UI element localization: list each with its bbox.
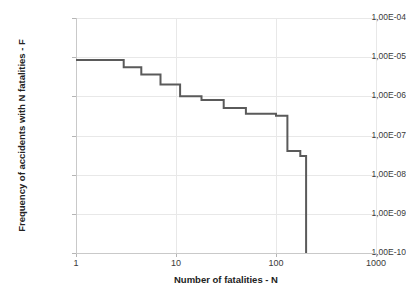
x-tick-label: 1 xyxy=(56,258,96,268)
gridline-vertical xyxy=(176,18,177,253)
y-axis-title: Frequency of accidents with N fatalities… xyxy=(16,11,27,261)
gridline-horizontal xyxy=(76,96,376,97)
y-tick-label: 1,00E-08 xyxy=(342,170,406,179)
x-axis-line xyxy=(76,253,377,254)
y-tick-label: 1,00E-05 xyxy=(342,52,406,61)
y-tick-label: 1,00E-07 xyxy=(342,131,406,140)
x-tick-label: 10 xyxy=(156,258,196,268)
y-tick-label: 1,00E-04 xyxy=(342,13,406,22)
gridline-horizontal xyxy=(76,18,376,19)
gridline-horizontal xyxy=(76,57,376,58)
x-tick-label: 100 xyxy=(256,258,296,268)
gridline-horizontal xyxy=(76,175,376,176)
x-tick-label: 1000 xyxy=(356,258,396,268)
y-tick-label: 1,00E-09 xyxy=(342,209,406,218)
y-tick-label: 1,00E-06 xyxy=(342,91,406,100)
x-axis-title: Number of fatalities - N xyxy=(76,274,376,285)
chart-container: 1,00E-041,00E-051,00E-061,00E-071,00E-08… xyxy=(0,0,406,294)
gridline-horizontal xyxy=(76,214,376,215)
gridline-horizontal xyxy=(76,136,376,137)
y-axis-line xyxy=(76,18,77,254)
gridline-vertical xyxy=(276,18,277,253)
